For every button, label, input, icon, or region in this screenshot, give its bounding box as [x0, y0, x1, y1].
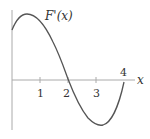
x-axis-label: x: [137, 73, 144, 87]
x-tick-label-1: 1: [37, 87, 44, 100]
derivative-curve: [12, 14, 124, 125]
x-tick-label-3: 3: [93, 87, 100, 100]
curve-label: F'(x): [44, 9, 73, 23]
x-tick-label-4: 4: [120, 66, 127, 79]
x-tick-label-2: 2: [63, 87, 70, 100]
chart: 1 2 3 4 x F'(x): [0, 0, 150, 139]
